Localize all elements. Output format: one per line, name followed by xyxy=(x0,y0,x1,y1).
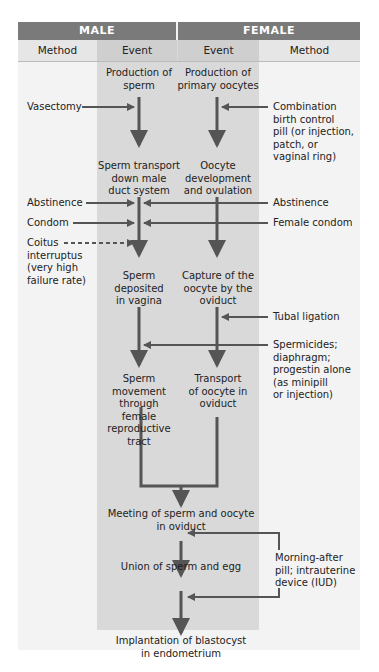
event-transport-of-oocyte: Transport of oocyte in oviduct xyxy=(176,373,260,411)
event-sperm-movement: Sperm movement through female reproducti… xyxy=(98,373,180,448)
event-production-of-sperm: Production of sperm xyxy=(98,67,180,92)
method-female-condom: Female condom xyxy=(273,217,353,230)
event-sperm-transport: Sperm transport down male duct system xyxy=(93,160,185,198)
method-abstinence-female: Abstinence xyxy=(273,197,329,210)
event-oocyte-development: Oocyte development and ovulation xyxy=(176,160,260,198)
event-sperm-deposited: Sperm deposited in vagina xyxy=(98,270,180,308)
event-capture-of-oocyte: Capture of the oocyte by the oviduct xyxy=(176,270,260,308)
event-union-of-sperm-and-egg: Union of sperm and egg xyxy=(96,561,266,574)
method-coitus-interruptus: Coitus interruptus (very high failure ra… xyxy=(27,237,86,287)
method-vasectomy: Vasectomy xyxy=(27,101,82,114)
method-morning-after-pill: Morning-after pill; intrauterine device … xyxy=(275,552,355,590)
method-abstinence-male: Abstinence xyxy=(27,197,83,210)
method-tubal-ligation: Tubal ligation xyxy=(273,311,340,324)
event-meeting-of-sperm-and-oocyte: Meeting of sperm and oocyte in oviduct xyxy=(96,508,266,533)
event-production-of-oocytes: Production of primary oocytes xyxy=(176,67,260,92)
method-condom: Condom xyxy=(27,217,69,230)
event-implantation: Implantation of blastocyst in endometriu… xyxy=(96,635,266,660)
method-combination-pill: Combination birth control pill (or injec… xyxy=(273,101,354,164)
method-spermicides: Spermicides; diaphragm; progestin alone … xyxy=(273,339,351,402)
